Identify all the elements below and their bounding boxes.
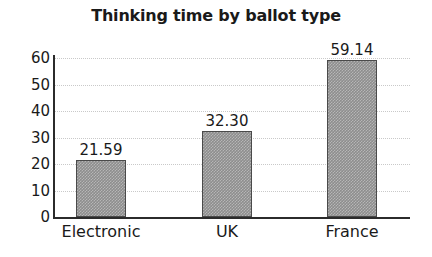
bar-france[interactable] bbox=[327, 60, 377, 217]
plot-area bbox=[54, 58, 410, 217]
bar-value-electronic: 21.59 bbox=[58, 141, 144, 159]
y-axis-line bbox=[53, 55, 55, 218]
y-tick-label-50: 50 bbox=[4, 76, 50, 94]
x-axis-line bbox=[53, 217, 410, 219]
chart-screenshot: Thinking time by ballot type 0 10 20 30 … bbox=[0, 0, 432, 257]
x-tick-label-electronic: Electronic bbox=[36, 222, 166, 241]
y-tick-label-40: 40 bbox=[4, 102, 50, 120]
y-axis-tick-labels: 0 10 20 30 40 50 60 bbox=[0, 58, 50, 217]
bar-uk[interactable] bbox=[202, 131, 252, 217]
bar-value-france: 59.14 bbox=[309, 41, 395, 59]
bar-value-uk: 32.30 bbox=[184, 112, 270, 130]
chart-title: Thinking time by ballot type bbox=[0, 6, 432, 25]
y-tick-label-20: 20 bbox=[4, 155, 50, 173]
bar-electronic[interactable] bbox=[76, 160, 126, 217]
x-tick-label-uk: UK bbox=[162, 222, 292, 241]
y-tick-label-10: 10 bbox=[4, 182, 50, 200]
y-tick-label-60: 60 bbox=[4, 49, 50, 67]
x-tick-label-france: France bbox=[287, 222, 417, 241]
y-tick-label-30: 30 bbox=[4, 129, 50, 147]
